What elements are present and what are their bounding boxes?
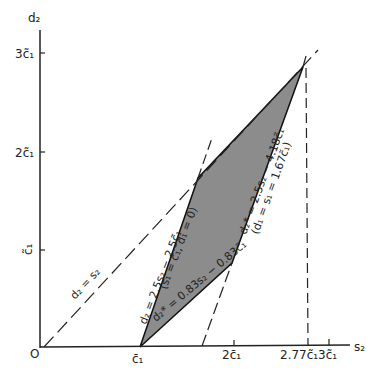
origin-label: O [30, 347, 39, 361]
y-axis-label: d₂ [28, 11, 41, 25]
line-vertical-2-77c1 [306, 68, 308, 345]
label-d2-equals-s2: d₂ = s₂ [68, 266, 103, 302]
x-tick-label-2-77c1: 2.77c̃₁ [280, 348, 318, 362]
diagram-canvas: d₂ s₂ O 3c̃₁ 2c̃₁ c̃₁ c̄₁ 2c̄₁ 2.77c̃₁ 3… [0, 0, 380, 374]
x-tick-label-3c1: 3c̃₁ [318, 348, 337, 362]
x-tick-label-2c1: 2c̄₁ [222, 348, 241, 362]
x-axis-label: s₂ [354, 340, 365, 354]
x-axis [40, 345, 350, 347]
y-tick-label-3c1: 3c̃₁ [15, 47, 34, 61]
y-tick-label-2c1: 2c̃₁ [15, 146, 34, 160]
y-tick-label-c1: c̃₁ [21, 243, 35, 255]
feasible-region-diagram: d₂ s₂ O 3c̃₁ 2c̃₁ c̃₁ c̄₁ 2c̄₁ 2.77c̃₁ 3… [0, 0, 380, 374]
x-tick-label-c1: c̄₁ [132, 352, 144, 366]
